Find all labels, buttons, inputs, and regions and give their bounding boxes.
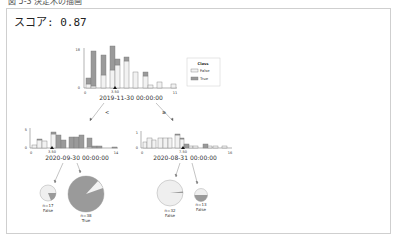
legend-false-label: False bbox=[200, 68, 210, 73]
decision-tree-diagram: 18 0 0 11 3.50 2019-11-30 00:00:00 Class… bbox=[0, 0, 394, 241]
left-split-label: 2020-09-30 00:00:00 bbox=[45, 154, 109, 161]
root-edges bbox=[90, 103, 173, 121]
leaf-2-class: True bbox=[81, 218, 91, 223]
legend-title: Class bbox=[197, 61, 209, 66]
class-legend: Class False True bbox=[187, 58, 220, 86]
leaf-pie-4: n=13 False bbox=[195, 189, 208, 213]
right-split-label: 2020-08-31 00:00:00 bbox=[153, 154, 217, 161]
edge-right-label: ≥ bbox=[162, 109, 166, 115]
edge-left-label: < bbox=[105, 109, 109, 115]
left-ymin: 0 bbox=[25, 146, 27, 150]
left-child-histogram: 5 0 0 14 3.50 2020-09-30 00:00:00 bbox=[25, 128, 119, 161]
left-ymax: 5 bbox=[25, 128, 27, 132]
leaf-3-class: False bbox=[165, 213, 176, 218]
leaf-pie-1: n=17 False bbox=[40, 185, 56, 213]
right-ymin: 0 bbox=[136, 146, 138, 150]
left-xmin: 0 bbox=[30, 151, 32, 155]
root-xmax: 11 bbox=[173, 91, 177, 95]
right-ymax: 1 bbox=[136, 131, 138, 135]
root-ymax: 18 bbox=[76, 48, 80, 52]
root-ymin: 0 bbox=[78, 86, 80, 90]
legend-true-label: True bbox=[199, 76, 209, 81]
right-child-histogram: 1 0 0 16 7.50 2020-08-31 00:00:00 bbox=[136, 131, 232, 161]
leaf-pie-2: n=38 True bbox=[68, 176, 104, 223]
leaf-pie-3: n=32 False bbox=[157, 180, 183, 218]
right-xmax: 16 bbox=[228, 151, 232, 155]
leaf-4-class: False bbox=[196, 207, 207, 212]
root-histogram: 18 0 0 11 3.50 2019-11-30 00:00:00 bbox=[76, 46, 178, 101]
leaf-1-class: False bbox=[43, 208, 54, 213]
root-split-label: 2019-11-30 00:00:00 bbox=[99, 94, 163, 101]
root-xmin: 0 bbox=[84, 91, 86, 95]
right-xmin: 0 bbox=[141, 151, 143, 155]
left-xmax: 14 bbox=[114, 151, 119, 155]
